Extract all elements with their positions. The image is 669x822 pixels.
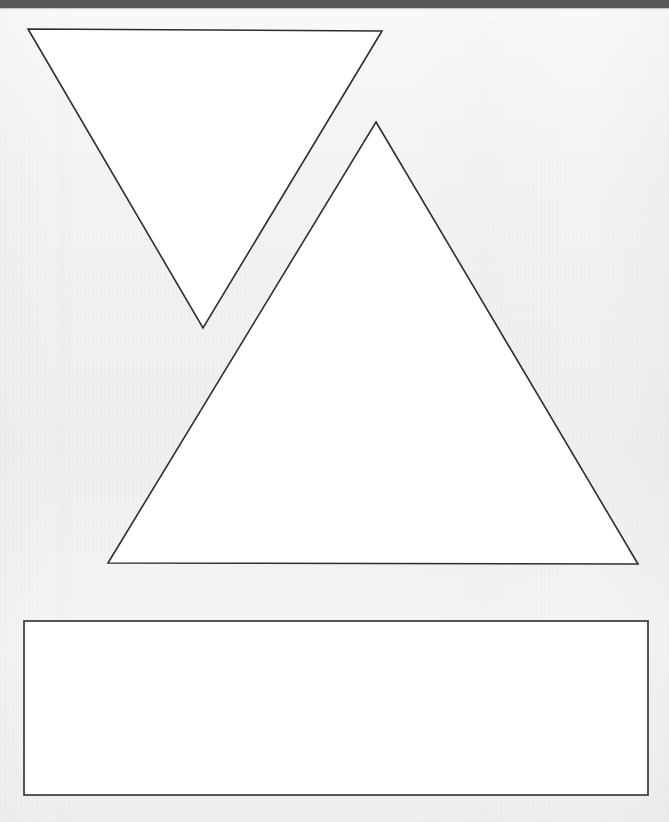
shape-layer	[0, 0, 669, 822]
shapes-canvas	[0, 0, 669, 822]
rectangle[interactable]	[24, 621, 648, 795]
